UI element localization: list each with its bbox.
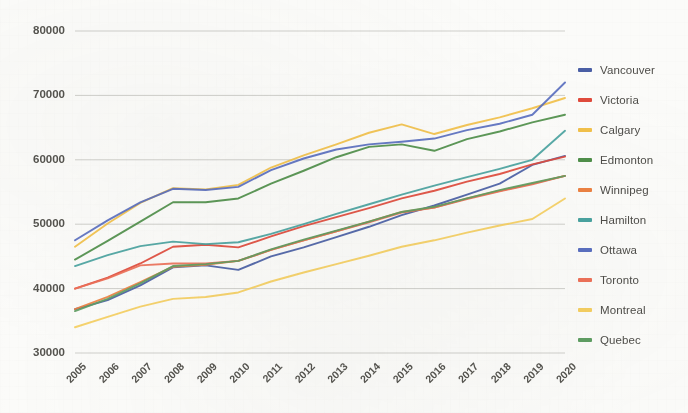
legend-item-calgary[interactable]: Calgary <box>578 115 688 145</box>
legend-item-label: Quebec <box>600 334 641 346</box>
legend-item-vancouver[interactable]: Vancouver <box>578 55 688 85</box>
chart-legend: VancouverVictoriaCalgaryEdmontonWinnipeg… <box>578 55 688 355</box>
legend-item-label: Victoria <box>600 94 639 106</box>
x-axis-tick-label: 2005 <box>63 360 88 385</box>
legend-swatch-icon <box>578 248 592 252</box>
x-axis-tick-label: 2008 <box>161 360 186 385</box>
legend-swatch-icon <box>578 278 592 282</box>
x-axis-tick-label: 2018 <box>488 360 513 385</box>
legend-item-ottawa[interactable]: Ottawa <box>578 235 688 265</box>
legend-item-edmonton[interactable]: Edmonton <box>578 145 688 175</box>
legend-item-label: Montreal <box>600 304 646 316</box>
y-axis-tick-label: 60000 <box>33 153 65 165</box>
x-axis-tick-label: 2013 <box>325 360 350 385</box>
legend-swatch-icon <box>578 158 592 162</box>
legend-swatch-icon <box>578 218 592 222</box>
y-axis-tick-label: 30000 <box>33 346 65 358</box>
series-line-vancouver <box>75 156 565 309</box>
legend-item-victoria[interactable]: Victoria <box>578 85 688 115</box>
x-axis-tick-label: 2019 <box>521 360 546 385</box>
legend-item-label: Hamilton <box>600 214 646 226</box>
legend-item-winnipeg[interactable]: Winnipeg <box>578 175 688 205</box>
x-axis-tick-label: 2017 <box>455 360 480 385</box>
x-axis-tick-label: 2007 <box>129 360 154 385</box>
legend-item-label: Winnipeg <box>600 184 649 196</box>
y-axis-tick-label: 40000 <box>33 282 65 294</box>
legend-item-label: Ottawa <box>600 244 637 256</box>
legend-item-hamilton[interactable]: Hamilton <box>578 205 688 235</box>
x-axis-tick-label: 2020 <box>553 360 578 385</box>
legend-swatch-icon <box>578 98 592 102</box>
x-axis-tick-label: 2012 <box>292 360 317 385</box>
y-axis-tick-label: 80000 <box>33 24 65 36</box>
x-axis-tick-label: 2010 <box>227 360 252 385</box>
legend-item-label: Calgary <box>600 124 640 136</box>
y-axis-tick-label: 50000 <box>33 217 65 229</box>
legend-item-quebec[interactable]: Quebec <box>578 325 688 355</box>
legend-item-label: Vancouver <box>600 64 655 76</box>
legend-swatch-icon <box>578 308 592 312</box>
y-axis-tick-labels: 300004000050000600007000080000 <box>33 24 65 358</box>
x-axis-tick-label: 2009 <box>194 360 219 385</box>
x-axis-tick-label: 2015 <box>390 360 415 385</box>
legend-item-montreal[interactable]: Montreal <box>578 295 688 325</box>
y-axis-tick-label: 70000 <box>33 88 65 100</box>
legend-swatch-icon <box>578 68 592 72</box>
x-axis-tick-label: 2014 <box>357 360 382 385</box>
legend-swatch-icon <box>578 128 592 132</box>
legend-swatch-icon <box>578 338 592 342</box>
legend-item-toronto[interactable]: Toronto <box>578 265 688 295</box>
data-series-group <box>75 83 565 328</box>
legend-item-label: Edmonton <box>600 154 653 166</box>
x-axis-tick-label: 2006 <box>96 360 121 385</box>
x-axis-tick-label: 2016 <box>423 360 448 385</box>
x-axis-tick-labels: 2005200620072008200920102011201220132014… <box>63 360 578 385</box>
legend-item-label: Toronto <box>600 274 639 286</box>
series-line-quebec <box>75 176 565 311</box>
legend-swatch-icon <box>578 188 592 192</box>
x-axis-tick-label: 2011 <box>260 360 285 385</box>
